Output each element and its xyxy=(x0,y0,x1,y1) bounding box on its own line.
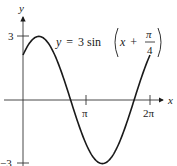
eq-func: sin xyxy=(87,35,101,49)
y-tick-label-neg3: −3 xyxy=(0,157,12,166)
x-axis-label: x xyxy=(167,94,173,106)
eq-plus: + xyxy=(130,35,137,49)
svg-text:y = 3 sin: y = 3 sin xyxy=(55,35,101,49)
svg-text:x +: x + xyxy=(119,35,137,49)
x-tick-label-pi: π xyxy=(82,107,88,119)
eq-coef: 3 xyxy=(78,35,84,49)
equation-label: y = 3 sin x + π 4 xyxy=(55,28,161,57)
eq-left-paren xyxy=(115,28,118,57)
eq-right-paren xyxy=(158,28,161,57)
eq-frac-num: π xyxy=(146,28,152,40)
y-tick-label-3: 3 xyxy=(8,30,14,42)
sine-graph: y x 3 −3 π 2π y = 3 sin x + π 4 xyxy=(0,0,177,166)
y-axis-label: y xyxy=(18,2,24,14)
eq-lhs: y xyxy=(55,35,62,49)
eq-equals: = xyxy=(66,35,73,49)
eq-frac-den: 4 xyxy=(147,44,153,56)
x-tick-label-2pi: 2π xyxy=(143,107,155,119)
eq-var: x xyxy=(119,35,126,49)
